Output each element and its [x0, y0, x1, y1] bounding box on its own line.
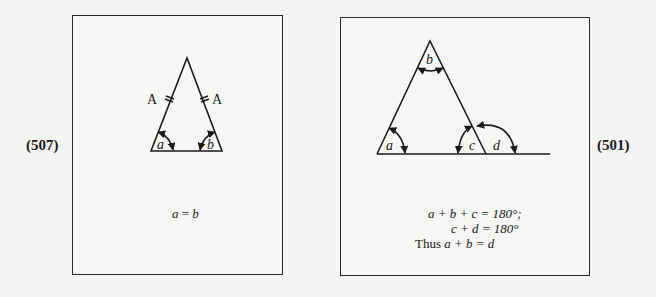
side-label-left: A — [147, 92, 158, 107]
caption-line-1: a + b + c = 180°; — [415, 206, 522, 221]
angle-label-a-501: a — [386, 138, 393, 153]
angle-label-b-501: b — [426, 52, 433, 67]
figure-501-caption: a + b + c = 180°; c + d = 180° Thus a + … — [415, 206, 522, 251]
caption-line-3: Thus a + b = d — [415, 236, 522, 251]
geometry-diagrams: A A a b b a c d — [0, 0, 656, 297]
caption-line-2: c + d = 180° — [415, 221, 522, 236]
angle-label-c-501: c — [469, 138, 476, 153]
figure-507-caption: a = b — [172, 206, 199, 221]
angle-label-d-501: d — [493, 138, 501, 153]
exterior-angle-triangle — [377, 41, 550, 154]
angle-label-b: b — [207, 137, 214, 152]
angle-label-a: a — [157, 137, 164, 152]
side-label-right: A — [212, 92, 223, 107]
